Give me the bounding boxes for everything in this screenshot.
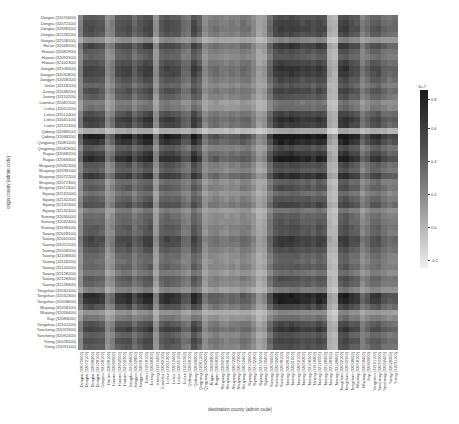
x-tick-label: Taixing (32128300) <box>328 352 333 402</box>
x-tick-label: Taixing (32041000) <box>290 352 295 402</box>
x-tick-label: Rugao (32068300) <box>214 352 219 402</box>
x-tick-label: Tongshan (32032300) <box>344 352 349 402</box>
y-tick-label: Yixing (32031100) <box>44 344 76 350</box>
x-tick-label: Qidong (32068100) <box>187 352 192 402</box>
colorbar-tick: 0.2 <box>428 192 437 197</box>
x-tick-label: Huaian (32082900) <box>111 352 116 402</box>
x-tick-label: Yixing (32031100) <box>393 352 398 402</box>
x-tick-label: Siyang (32132200) <box>252 352 257 402</box>
x-tick-label: Taixing (32120500) <box>317 352 322 402</box>
x-tick-label: Dongtai (32072100) <box>84 352 89 402</box>
x-tick-label: Wujiang (32058100) <box>355 352 360 402</box>
x-tick-label: Dongtai (32070600) <box>79 352 84 402</box>
y-axis-tick-labels: Dongtai (32070600)Dongtai (32072100)Dong… <box>0 15 76 350</box>
x-tick-label: Jurong (32048200) <box>149 352 154 402</box>
x-tick-label: Qidong (32068200) <box>193 352 198 402</box>
x-tick-label: Siyang (32132300) <box>258 352 263 402</box>
colorbar-tick: 0.8 <box>428 97 437 102</box>
x-tick-label: Shuyang (32082300) <box>220 352 225 402</box>
x-tick-label: Taixing (32052100) <box>296 352 301 402</box>
colorbar-tick: 0.4 <box>428 159 437 164</box>
x-tick-label: Wujiang (32058400) <box>361 352 366 402</box>
x-tick-label: Jiangyin (32058100) <box>138 352 143 402</box>
x-tick-label: Taixing (32058200) <box>301 352 306 402</box>
heatmap-grid <box>78 15 398 350</box>
colorbar-tick: 0.6 <box>428 126 437 131</box>
x-tick-label: Lishui (32045100) <box>176 352 181 402</box>
x-tick-label: Xuyi (32083000) <box>366 352 371 402</box>
x-tick-label: Lishui (32115300) <box>182 352 187 402</box>
x-tick-label: Lishui (32011200) <box>165 352 170 402</box>
x-tick-label: Taixing (32128400) <box>334 352 339 402</box>
x-tick-label: Dongtai (32098200) <box>90 352 95 402</box>
x-tick-label: Qingjiang (32082600) <box>203 352 208 402</box>
x-tick-label: Gaoyou (32108100) <box>100 352 105 402</box>
x-tick-label: Suining (32030000) <box>269 352 274 402</box>
colorbar <box>420 90 428 268</box>
x-tick-label: Huaian (32092500) <box>117 352 122 402</box>
x-tick-label: Shuyang (32072200) <box>231 352 236 402</box>
x-axis-title: destination county (admin code) <box>180 407 300 412</box>
x-tick-label: Yancheng (32092400) <box>382 352 387 402</box>
x-tick-label: Suining (32038100) <box>279 352 284 402</box>
x-tick-label: Yangzhou (32101100) <box>372 352 377 402</box>
x-tick-label: Taixing (32108300) <box>307 352 312 402</box>
y-axis-title: origin county (admin code) <box>6 153 11 213</box>
colorbar-exponent: 1e-7 <box>418 84 426 89</box>
x-axis-tick-labels: Dongtai (32070600)Dongtai (32072100)Dong… <box>78 352 398 407</box>
x-tick-label: Jurong (32110200) <box>155 352 160 402</box>
x-tick-label: Shuyang (32072400) <box>241 352 246 402</box>
x-tick-label: Huaian (32102300) <box>122 352 127 402</box>
colorbar-tick: 0.0 <box>428 225 437 230</box>
x-tick-label: Shuyang (32098100) <box>225 352 230 402</box>
colorbar-tick: -0.2 <box>428 258 438 263</box>
x-tick-label: Siyang (32132400) <box>263 352 268 402</box>
x-tick-label: Jiangdu (32108400) <box>128 352 133 402</box>
